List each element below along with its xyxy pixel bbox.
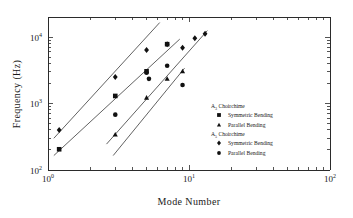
data-point [180, 83, 185, 88]
legend-entry-label: Parallel Bending [228, 150, 266, 156]
legend-entry-label: Symmetric Bending [228, 112, 273, 118]
legend: A3 ChoirchimeSymmetric BendingParallel B… [211, 103, 273, 156]
data-point [144, 70, 149, 75]
data-point [165, 76, 170, 81]
series-diamond [57, 31, 208, 133]
legend-marker-diamond-icon [217, 141, 221, 146]
x-tick-label: 101 [183, 173, 195, 184]
fit-upper [54, 23, 160, 139]
series-square [57, 42, 170, 152]
legend-marker-square-icon [217, 113, 221, 117]
scatter-plot-svg: 100101102 102103104 Mode Number Frequenc… [0, 0, 353, 218]
x-axis-ticks [48, 17, 330, 170]
legend-marker-triangle-icon [217, 123, 221, 127]
x-axis-title: Mode Number [158, 196, 221, 207]
data-point [113, 94, 118, 99]
x-tick-label: 100 [42, 173, 54, 184]
data-point [57, 127, 62, 133]
data-points-group [57, 31, 208, 152]
legend-marker-circle-icon [217, 151, 221, 155]
fit-lines-group [54, 23, 208, 156]
y-axis-ticks [48, 17, 330, 170]
data-point [144, 47, 149, 53]
legend-entry-label: Parallel Bending [228, 122, 266, 128]
y-tick-label: 104 [30, 32, 42, 43]
y-tick-label: 102 [30, 165, 42, 176]
y-tick-label: 103 [30, 98, 42, 109]
data-point [57, 147, 62, 152]
data-point [147, 77, 152, 82]
data-point [192, 35, 197, 41]
y-tick-labels: 102103104 [30, 32, 42, 176]
x-tick-label: 102 [324, 173, 336, 184]
legend-group-header: A5 Choirchime [211, 131, 245, 139]
y-axis-title: Frequency (Hz) [11, 60, 23, 129]
series-circle [113, 63, 185, 117]
fit-lower [113, 68, 184, 155]
fit-third [107, 31, 208, 145]
x-tick-labels: 100101102 [42, 173, 336, 184]
data-point [180, 45, 185, 51]
data-point [180, 69, 185, 74]
legend-group-header: A3 Choirchime [211, 103, 245, 111]
chart-figure: 100101102 102103104 Mode Number Frequenc… [0, 0, 353, 218]
data-point [113, 112, 118, 117]
plot-frame [48, 17, 330, 170]
legend-entry-label: Symmetric Bending [228, 140, 273, 146]
data-point [113, 74, 118, 80]
data-point [165, 63, 170, 68]
